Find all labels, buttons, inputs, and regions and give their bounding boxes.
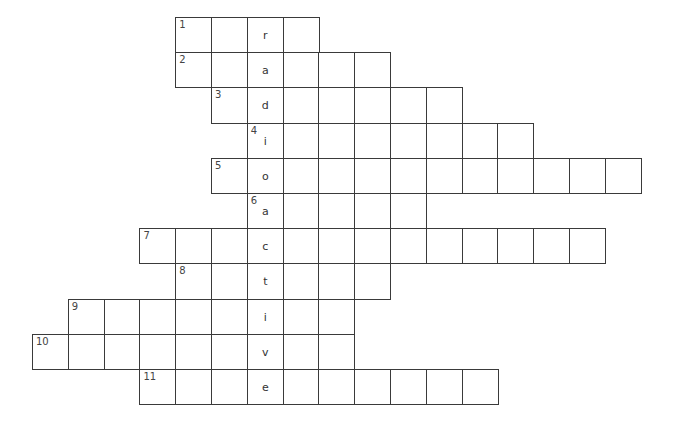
crossword-cell[interactable] <box>354 228 391 264</box>
crossword-cell[interactable] <box>175 369 212 405</box>
crossword-cell[interactable] <box>497 228 534 264</box>
crossword-cell[interactable]: e <box>247 369 284 405</box>
crossword-cell[interactable] <box>354 52 391 88</box>
clue-number: 9 <box>72 301 78 312</box>
crossword-cell[interactable]: 7 <box>139 228 176 264</box>
crossword-cell[interactable]: a <box>247 52 284 88</box>
crossword-cell[interactable] <box>283 263 320 299</box>
crossword-cell[interactable]: 10 <box>32 334 69 370</box>
given-letter: e <box>248 381 283 394</box>
crossword-cell[interactable] <box>390 369 427 405</box>
crossword-cell[interactable] <box>283 87 320 123</box>
crossword-cell[interactable] <box>318 263 355 299</box>
crossword-cell[interactable] <box>533 158 570 194</box>
given-letter: c <box>248 240 283 253</box>
crossword-cell[interactable]: 4i <box>247 123 284 159</box>
crossword-cell[interactable] <box>462 228 499 264</box>
crossword-cell[interactable]: 8 <box>175 263 212 299</box>
crossword-cell[interactable] <box>426 369 463 405</box>
crossword-cell[interactable]: v <box>247 334 284 370</box>
crossword-cell[interactable]: d <box>247 87 284 123</box>
crossword-cell[interactable] <box>390 123 427 159</box>
crossword-grid: 1r2a3d4i5o6a7c8t9i10v11e <box>0 0 681 428</box>
crossword-cell[interactable] <box>354 369 391 405</box>
crossword-cell[interactable] <box>390 87 427 123</box>
crossword-cell[interactable] <box>569 158 606 194</box>
crossword-cell[interactable] <box>318 334 355 370</box>
crossword-cell[interactable] <box>354 263 391 299</box>
crossword-cell[interactable] <box>283 369 320 405</box>
crossword-cell[interactable] <box>283 17 320 53</box>
crossword-cell[interactable] <box>211 17 248 53</box>
crossword-cell[interactable]: c <box>247 228 284 264</box>
crossword-cell[interactable] <box>318 369 355 405</box>
crossword-cell[interactable] <box>390 228 427 264</box>
crossword-cell[interactable] <box>354 193 391 229</box>
given-letter: i <box>248 135 283 148</box>
crossword-cell[interactable] <box>175 334 212 370</box>
crossword-cell[interactable]: 5 <box>211 158 248 194</box>
given-letter: r <box>248 29 283 42</box>
crossword-cell[interactable] <box>318 228 355 264</box>
crossword-cell[interactable]: o <box>247 158 284 194</box>
crossword-cell[interactable] <box>283 158 320 194</box>
crossword-cell[interactable] <box>569 228 606 264</box>
crossword-cell[interactable] <box>283 52 320 88</box>
crossword-cell[interactable] <box>211 334 248 370</box>
crossword-cell[interactable] <box>426 87 463 123</box>
crossword-cell[interactable] <box>462 158 499 194</box>
clue-number: 5 <box>215 160 221 171</box>
crossword-cell[interactable] <box>104 334 141 370</box>
crossword-cell[interactable] <box>139 334 176 370</box>
crossword-cell[interactable] <box>533 228 570 264</box>
crossword-cell[interactable] <box>354 158 391 194</box>
crossword-cell[interactable] <box>211 299 248 335</box>
crossword-cell[interactable] <box>318 193 355 229</box>
crossword-cell[interactable]: 2 <box>175 52 212 88</box>
crossword-cell[interactable] <box>390 158 427 194</box>
crossword-cell[interactable] <box>426 123 463 159</box>
crossword-cell[interactable]: 1 <box>175 17 212 53</box>
crossword-cell[interactable] <box>283 123 320 159</box>
crossword-cell[interactable] <box>283 193 320 229</box>
crossword-cell[interactable] <box>354 87 391 123</box>
crossword-cell[interactable] <box>318 87 355 123</box>
crossword-cell[interactable]: 6a <box>247 193 284 229</box>
clue-number: 8 <box>179 265 185 276</box>
crossword-cell[interactable] <box>605 158 642 194</box>
crossword-cell[interactable] <box>283 299 320 335</box>
crossword-cell[interactable] <box>283 334 320 370</box>
crossword-cell[interactable] <box>390 193 427 229</box>
crossword-cell[interactable] <box>104 299 141 335</box>
crossword-cell[interactable] <box>426 158 463 194</box>
crossword-cell[interactable] <box>462 369 499 405</box>
crossword-cell[interactable] <box>211 369 248 405</box>
crossword-cell[interactable] <box>211 52 248 88</box>
crossword-cell[interactable] <box>318 123 355 159</box>
crossword-cell[interactable] <box>318 299 355 335</box>
crossword-cell[interactable] <box>318 52 355 88</box>
given-letter: a <box>248 64 283 77</box>
crossword-cell[interactable] <box>426 228 463 264</box>
crossword-cell[interactable] <box>497 158 534 194</box>
given-letter: d <box>248 100 283 113</box>
crossword-cell[interactable]: 9 <box>68 299 105 335</box>
crossword-cell[interactable] <box>139 299 176 335</box>
crossword-cell[interactable] <box>211 228 248 264</box>
crossword-cell[interactable]: r <box>247 17 284 53</box>
crossword-cell[interactable] <box>283 228 320 264</box>
clue-number: 1 <box>179 19 185 30</box>
crossword-cell[interactable] <box>318 158 355 194</box>
crossword-cell[interactable] <box>354 123 391 159</box>
crossword-cell[interactable] <box>175 299 212 335</box>
crossword-cell[interactable] <box>175 228 212 264</box>
given-letter: i <box>248 311 283 324</box>
crossword-cell[interactable] <box>462 123 499 159</box>
crossword-cell[interactable]: 11 <box>139 369 176 405</box>
crossword-cell[interactable]: 3 <box>211 87 248 123</box>
crossword-cell[interactable] <box>68 334 105 370</box>
crossword-cell[interactable] <box>497 123 534 159</box>
crossword-cell[interactable]: t <box>247 263 284 299</box>
crossword-cell[interactable]: i <box>247 299 284 335</box>
crossword-cell[interactable] <box>211 263 248 299</box>
